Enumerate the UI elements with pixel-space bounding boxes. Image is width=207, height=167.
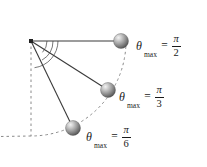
fraction-numerator: π <box>172 34 179 46</box>
fraction-numerator: π <box>155 85 162 97</box>
fraction-pi-over-2: π 2 <box>172 34 181 58</box>
theta-symbol: θ <box>119 91 125 103</box>
equals-sign: = <box>111 131 118 143</box>
bob-pi-over-6 <box>66 121 81 136</box>
bob-pi-over-2 <box>114 34 129 49</box>
fraction-pi-over-3: π 3 <box>155 85 164 109</box>
equals-sign: = <box>161 40 168 52</box>
fraction-numerator: π <box>122 125 129 137</box>
pivot-point <box>29 39 33 43</box>
theta-subscript: max <box>94 142 107 150</box>
label-pi-over-3: θmax = π 3 <box>119 85 164 109</box>
pendulum-figure: θmax = π 2 θmax = π 3 θmax = π 6 <box>0 0 207 167</box>
fraction-denominator: 3 <box>156 98 163 110</box>
trajectory-arc-extension-dashed <box>0 136 31 137</box>
fraction-pi-over-6: π 6 <box>122 125 131 149</box>
bob-pi-over-3 <box>101 83 116 98</box>
theta-symbol: θ <box>86 131 92 143</box>
label-pi-over-2: θmax = π 2 <box>136 34 181 58</box>
theta-symbol: θ <box>136 40 142 52</box>
fraction-denominator: 6 <box>123 138 130 150</box>
theta-subscript: max <box>127 102 140 110</box>
label-pi-over-6: θmax = π 6 <box>86 125 131 149</box>
equals-sign: = <box>144 91 151 103</box>
theta-subscript: max <box>144 51 157 59</box>
fraction-denominator: 2 <box>173 47 180 59</box>
